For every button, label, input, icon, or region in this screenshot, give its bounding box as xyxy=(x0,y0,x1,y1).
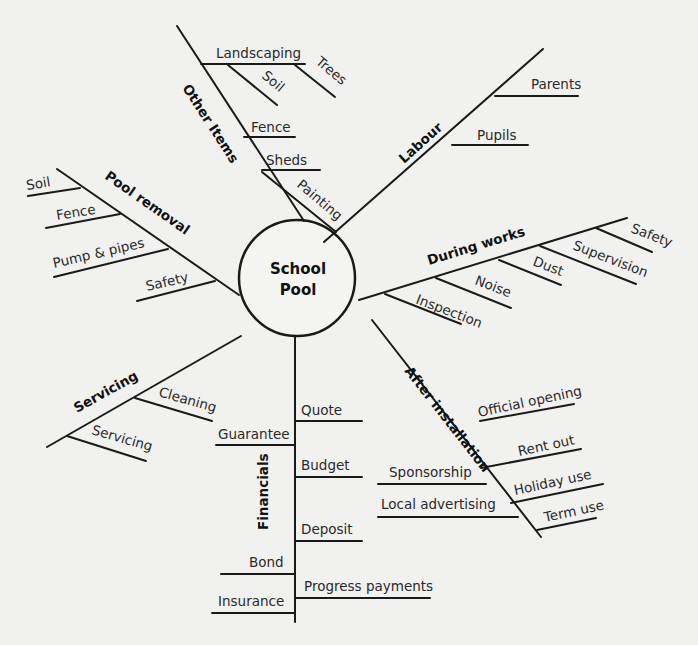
inspection-label: Inspection xyxy=(414,291,485,331)
pool-removal-line xyxy=(57,169,239,295)
branch-other-items: Other Items Landscaping Soil Trees Fence… xyxy=(177,26,350,232)
deposit-label: Deposit xyxy=(301,521,353,537)
mind-map: School Pool Other Items Landscaping Soil… xyxy=(0,0,698,645)
budget-label: Budget xyxy=(301,457,350,473)
other-fence-label: Fence xyxy=(251,119,291,135)
pupils-label: Pupils xyxy=(477,127,517,143)
parents-label: Parents xyxy=(531,76,581,92)
local-advertising-label: Local advertising xyxy=(381,496,496,512)
center-title-1: School xyxy=(270,260,326,278)
sponsorship-label: Sponsorship xyxy=(389,464,472,480)
branch-after-installation: After installation Official opening Rent… xyxy=(372,320,605,537)
sheds-label: Sheds xyxy=(266,152,307,168)
official-opening-label: Official opening xyxy=(476,382,583,420)
holiday-use-label: Holiday use xyxy=(512,466,593,498)
center-title-2: Pool xyxy=(280,281,317,299)
progress-payments-label: Progress payments xyxy=(304,578,433,594)
cleaning-label: Cleaning xyxy=(157,384,218,416)
center-node: School Pool xyxy=(239,220,355,336)
bond-label: Bond xyxy=(249,554,284,570)
during-works-label: During works xyxy=(425,223,527,268)
servicing-line xyxy=(47,336,241,447)
landscaping-label: Landscaping xyxy=(216,45,301,61)
servicing-item-label: Servicing xyxy=(90,422,154,455)
term-use-label: Term use xyxy=(541,497,605,526)
landscaping-soil-label: Soil xyxy=(259,67,288,95)
branch-pool-removal: Pool removal Soil Fence Pump & pipes Saf… xyxy=(25,167,239,301)
quote-label: Quote xyxy=(301,402,342,418)
branch-labour: Labour Parents Pupils xyxy=(324,49,581,242)
removal-soil-label: Soil xyxy=(25,173,52,193)
branch-during-works: During works Inspection Noise Dust Super… xyxy=(359,218,675,331)
servicing-category-label: Servicing xyxy=(71,367,141,415)
pool-removal-label: Pool removal xyxy=(102,167,193,237)
guarantee-label: Guarantee xyxy=(218,426,290,442)
other-items-label: Other Items xyxy=(179,81,242,166)
insurance-label: Insurance xyxy=(218,593,284,609)
financials-label: Financials xyxy=(255,453,271,530)
branch-servicing: Servicing Cleaning Servicing xyxy=(47,336,241,461)
